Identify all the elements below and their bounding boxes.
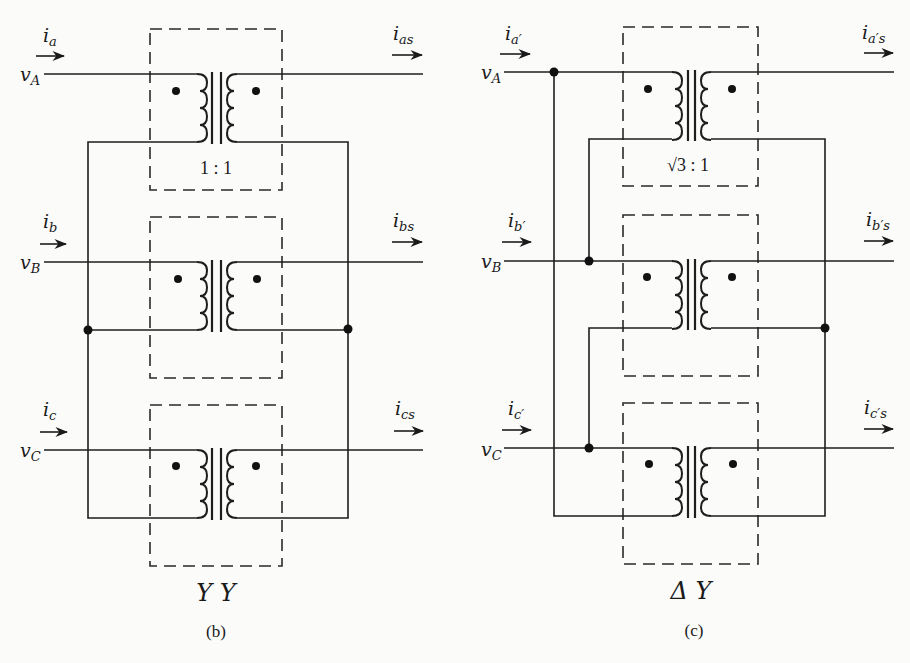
secondary-coil-icon: [227, 262, 237, 330]
junction-dot-icon: [821, 324, 830, 333]
caption-b: (b): [206, 622, 226, 641]
caption-c: (c): [685, 621, 704, 640]
junction-dot-icon: [550, 68, 559, 77]
input-current-label-a: ia′: [505, 22, 522, 47]
input-current-label-b: ib: [43, 210, 57, 235]
secondary-coil-icon: [701, 448, 711, 516]
junction-dot-icon: [84, 326, 93, 335]
delta-link-a-to-b: [589, 139, 672, 262]
polarity-dot-icon: [253, 275, 261, 283]
primary-coil-icon: [672, 72, 682, 140]
config-label-yy: Y Y: [196, 579, 237, 607]
primary-coil-icon: [672, 448, 682, 516]
config-label-delta-y: Δ Y: [670, 577, 714, 605]
secondary-coil-icon: [701, 72, 711, 140]
turns-ratio-label: 1 : 1: [200, 158, 232, 178]
output-current-label-c: ic′s: [864, 396, 887, 421]
input-current-label-c: ic: [43, 398, 57, 423]
junction-dot-icon: [585, 257, 594, 266]
primary-coil-icon: [197, 74, 207, 142]
transformer-b: [504, 257, 894, 449]
voltage-label-a: vA: [481, 61, 501, 86]
transformer-b: [44, 260, 423, 335]
voltage-label-c: vC: [481, 438, 502, 463]
polarity-dot-icon: [252, 462, 260, 470]
output-current-label-c: ics: [395, 397, 415, 422]
input-current-label-a: ia: [43, 24, 57, 49]
primary-coil-icon: [197, 450, 207, 518]
delta-link-b-to-c: [589, 328, 672, 448]
output-current-label-a: ia′s: [862, 21, 886, 46]
voltage-label-a: vA: [20, 63, 40, 88]
secondary-coil-icon: [701, 261, 711, 329]
polarity-dot-icon: [252, 87, 260, 95]
input-current-label-c: ic′: [508, 397, 524, 422]
polarity-dot-icon: [174, 275, 182, 283]
polarity-dot-icon: [728, 85, 736, 93]
transformer-c: [44, 448, 423, 520]
secondary-coil-icon: [227, 450, 237, 518]
output-current-label-b: ibs: [393, 209, 414, 234]
transformer-c-enclosure: [150, 405, 282, 566]
secondary-coil-icon: [227, 74, 237, 142]
polarity-dot-icon: [645, 460, 653, 468]
output-current-label-b: ib′s: [866, 208, 890, 233]
junction-dot-icon: [344, 325, 353, 334]
polarity-dot-icon: [172, 87, 180, 95]
transformer-b-enclosure: [623, 215, 758, 376]
primary-coil-icon: [197, 262, 207, 330]
turns-ratio-label: √3 : 1: [667, 155, 709, 175]
diagram-delta-y: ia′ vA ia′s √3 : 1 ib′ vB ib′s ic′ vC ic…: [481, 21, 894, 640]
polarity-dot-icon: [728, 273, 736, 281]
input-current-label-b: ib′: [508, 209, 525, 234]
polarity-dot-icon: [644, 85, 652, 93]
polarity-dot-icon: [729, 460, 737, 468]
transformer-c-enclosure: [623, 403, 758, 564]
transformer-b-enclosure: [150, 217, 282, 378]
diagram-yy: ia vA ias 1 : 1 ib vB ibs ic vC ics Y Y …: [20, 22, 423, 641]
transformer-c: [504, 444, 894, 519]
voltage-label-b: vB: [481, 250, 501, 275]
transformer-connection-figure: ia vA ias 1 : 1 ib vB ibs ic vC ics Y Y …: [0, 0, 910, 663]
polarity-dot-icon: [643, 273, 651, 281]
primary-coil-icon: [672, 261, 682, 329]
voltage-label-c: vC: [20, 439, 41, 464]
voltage-label-b: vB: [20, 251, 40, 276]
junction-dot-icon: [585, 444, 594, 453]
output-current-label-a: ias: [393, 22, 414, 47]
polarity-dot-icon: [172, 462, 180, 470]
circuit-canvas: ia vA ias 1 : 1 ib vB ibs ic vC ics Y Y …: [0, 0, 910, 663]
